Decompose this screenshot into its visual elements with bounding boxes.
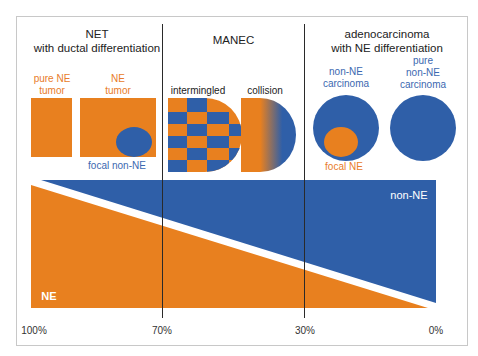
non-ne-carcinoma-label: non-NE carcinoma <box>316 66 376 90</box>
manec-title: MANEC <box>163 33 304 47</box>
pure-non-ne-carcinoma-shape <box>390 95 456 161</box>
ne-tumor-label: NE tumor <box>92 73 144 97</box>
collision-shape <box>241 98 296 172</box>
focal-non-ne-label: focal non-NE <box>82 160 152 172</box>
tick-100: 100% <box>18 324 50 337</box>
pure-ne-tumor-shape <box>31 98 72 157</box>
collision-label: collision <box>240 84 290 97</box>
tick-30: 30% <box>290 324 320 337</box>
tick-70: 70% <box>147 324 177 337</box>
intermingled-shape <box>168 98 249 174</box>
focal-ne-shape <box>324 127 358 157</box>
net-title: NET with ductal differentiation <box>30 27 164 55</box>
pure-ne-tumor-label: pure NE tumor <box>26 73 78 97</box>
tick-0: 0% <box>424 324 448 337</box>
focal-non-ne-shape <box>116 127 152 157</box>
ne-region-label: NE <box>38 290 60 303</box>
divider-70 <box>162 24 163 318</box>
divider-30 <box>304 24 305 318</box>
focal-ne-label: focal NE <box>316 161 372 173</box>
adeno-title: adenocarcinoma with NE differentiation <box>305 27 469 55</box>
non-ne-region-label: non-NE <box>386 189 432 202</box>
pure-non-ne-carcinoma-label: pure non-NE carcinoma <box>393 55 453 91</box>
intermingled-label: intermingled <box>166 84 230 97</box>
